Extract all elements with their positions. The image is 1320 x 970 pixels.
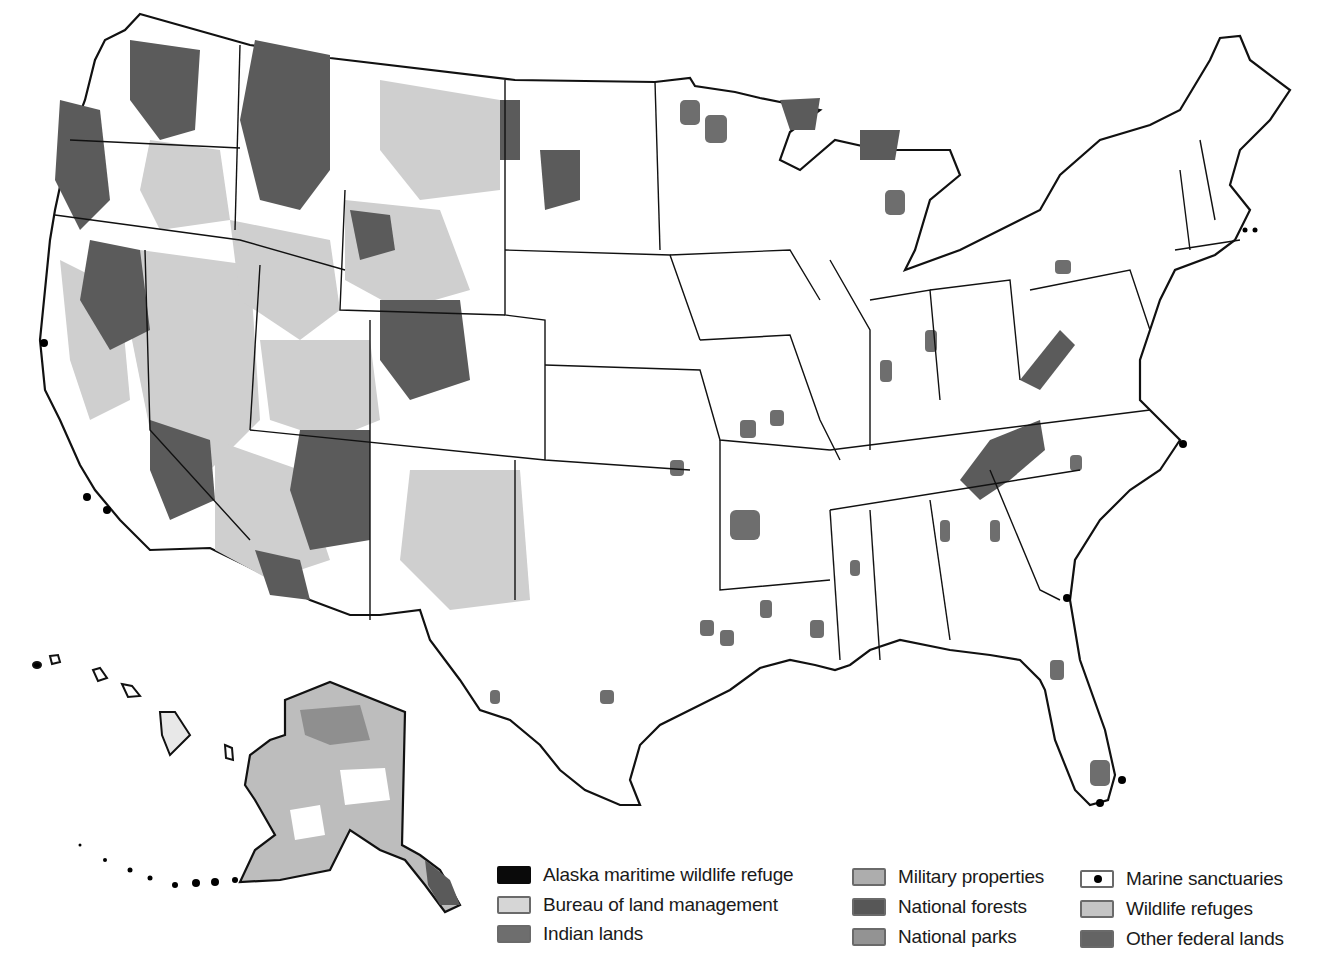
military-properties-swatch-icon: [852, 868, 886, 886]
wildlife-refuges-swatch-icon: [1080, 900, 1114, 918]
national-forests-swatch-icon: [852, 898, 886, 916]
legend-item-marine-sanctuaries: Marine sanctuaries: [1080, 866, 1283, 892]
legend-item-other-federal-lands: Other federal lands: [1080, 926, 1284, 952]
federal-lands-map: Alaska maritime wildlife refuge Bureau o…: [0, 0, 1320, 970]
legend-item-wildlife-refuges: Wildlife refuges: [1080, 896, 1253, 922]
alaska-maritime-wildlife-refuge-islands: [79, 844, 239, 889]
legend-label: Alaska maritime wildlife refuge: [543, 864, 793, 886]
national-parks-swatch-icon: [852, 928, 886, 946]
marine-sanctuary-dot-icon: [1094, 875, 1102, 883]
legend-label: Military properties: [898, 866, 1044, 888]
legend-label: National forests: [898, 896, 1027, 918]
us-map-graphic: [0, 0, 1320, 970]
hawaii: [33, 655, 233, 760]
legend-label: National parks: [898, 926, 1017, 948]
alaska: [79, 682, 461, 912]
bureau-of-land-management-swatch-icon: [497, 896, 531, 914]
legend-label: Indian lands: [543, 923, 643, 945]
marine-sanctuaries-swatch-icon: [1080, 870, 1114, 888]
indian-lands-swatch-icon: [497, 925, 531, 943]
legend-item-national-parks: National parks: [852, 924, 1017, 950]
map-legend: Alaska maritime wildlife refuge Bureau o…: [497, 862, 1317, 962]
legend-item-alaska-maritime-wildlife-refuge: Alaska maritime wildlife refuge: [497, 862, 793, 888]
legend-label: Bureau of land management: [543, 894, 778, 916]
legend-item-national-forests: National forests: [852, 894, 1027, 920]
legend-label: Marine sanctuaries: [1126, 868, 1283, 890]
legend-item-bureau-of-land-management: Bureau of land management: [497, 892, 778, 918]
legend-item-military-properties: Military properties: [852, 864, 1044, 890]
legend-label: Other federal lands: [1126, 928, 1284, 950]
legend-item-indian-lands: Indian lands: [497, 921, 643, 947]
other-federal-lands-swatch-icon: [1080, 930, 1114, 948]
alaska-maritime-wildlife-refuge-swatch-icon: [497, 866, 531, 884]
legend-label: Wildlife refuges: [1126, 898, 1253, 920]
